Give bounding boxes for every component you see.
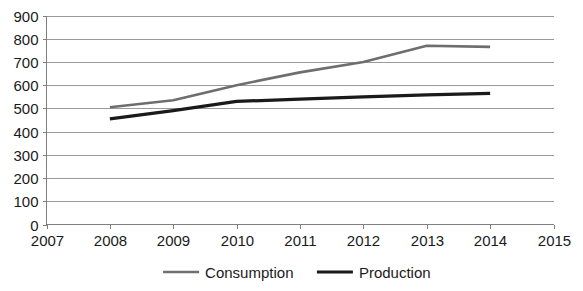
y-tick-label-500: 500 xyxy=(13,100,38,117)
chart-legend: ConsumptionProduction xyxy=(163,264,431,281)
x-tick-label-2007: 2007 xyxy=(31,232,64,249)
y-tick-label-700: 700 xyxy=(13,54,38,71)
line-chart: 0100200300400500600700800900 20072008200… xyxy=(0,0,583,291)
x-tick-label-2010: 2010 xyxy=(221,232,254,249)
x-tick-label-2013: 2013 xyxy=(411,232,444,249)
value-axis xyxy=(43,16,47,226)
y-tick-label-100: 100 xyxy=(13,193,38,210)
chart-canvas: 0100200300400500600700800900 20072008200… xyxy=(0,0,583,291)
x-tick-label-2009: 2009 xyxy=(157,232,190,249)
legend-label-production: Production xyxy=(359,264,431,281)
y-tick-label-600: 600 xyxy=(13,77,38,94)
year-axis xyxy=(47,225,555,229)
x-tick-label-2015: 2015 xyxy=(538,232,571,249)
y-tick-label-200: 200 xyxy=(13,170,38,187)
y-tick-label-900: 900 xyxy=(13,8,38,25)
series-line-production xyxy=(110,93,490,119)
x-tick-label-2008: 2008 xyxy=(94,232,127,249)
y-tick-label-300: 300 xyxy=(13,147,38,164)
series-lines xyxy=(110,46,490,119)
y-tick-labels: 0100200300400500600700800900 xyxy=(13,8,38,234)
y-tick-label-800: 800 xyxy=(13,31,38,48)
x-tick-labels: 200720082009201020112012201320142015 xyxy=(31,232,571,249)
y-tick-label-400: 400 xyxy=(13,124,38,141)
x-tick-label-2011: 2011 xyxy=(284,232,316,249)
x-tick-label-2012: 2012 xyxy=(347,232,380,249)
gridlines xyxy=(47,17,554,202)
x-tick-label-2014: 2014 xyxy=(474,232,507,249)
legend-label-consumption: Consumption xyxy=(205,264,293,281)
